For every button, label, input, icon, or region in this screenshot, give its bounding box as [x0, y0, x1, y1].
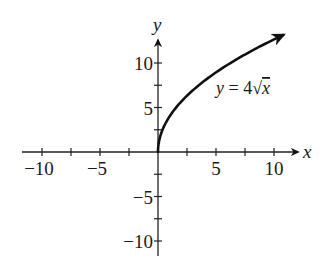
sqrt-symbol: √: [252, 78, 262, 98]
function-graph: −10−5510105−5−10 x y y = 4√x: [0, 0, 328, 264]
x-tick-label: 5: [211, 158, 221, 179]
y-axis-label: y: [151, 14, 162, 35]
y-tick-label: −10: [123, 231, 153, 252]
y-tick-label: −5: [133, 187, 153, 208]
y-tick-label: 5: [144, 98, 154, 119]
equation-label: y = 4√x: [214, 78, 270, 98]
x-tick-label: −5: [87, 158, 107, 179]
x-tick-label: −10: [24, 158, 54, 179]
x-axis-label: x: [302, 141, 312, 162]
y-tick-label: 10: [134, 53, 153, 74]
x-tick-label: 10: [265, 158, 284, 179]
